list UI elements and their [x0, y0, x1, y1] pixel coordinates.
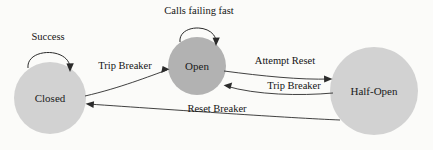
transition-label-calls-failing-fast: Calls failing fast — [164, 5, 233, 16]
transition-half-open-to-open-arrowhead — [224, 82, 233, 89]
transition-half-open-to-closed-arrowhead — [86, 101, 95, 108]
transition-label-attempt-reset: Attempt Reset — [255, 55, 315, 66]
transition-open-to-half-open-line — [224, 71, 330, 79]
transition-label-reset-breaker: Reset Breaker — [187, 103, 247, 114]
transition-closed-to-open-line — [85, 70, 167, 96]
state-label-open: Open — [185, 60, 209, 72]
state-label-half-open: Half-Open — [350, 85, 398, 97]
diagram-canvas: Closed Open Half-Open Success Calls fail… — [0, 0, 433, 150]
transition-label-success: Success — [31, 31, 64, 42]
transition-label-trip-breaker-closed-open: Trip Breaker — [98, 60, 152, 71]
state-label-closed: Closed — [35, 92, 66, 104]
state-diagram: Closed Open Half-Open Success Calls fail… — [0, 0, 433, 150]
transition-label-trip-breaker-half-open-open: Trip Breaker — [267, 80, 321, 91]
